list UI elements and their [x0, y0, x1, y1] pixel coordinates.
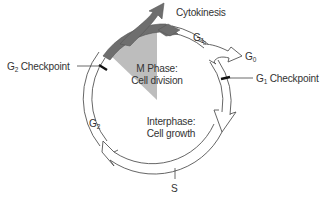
- s-label: S: [171, 182, 178, 194]
- g2-checkpoint-label: G2 Checkpoint: [7, 60, 70, 72]
- g0-exit-arrow: [203, 44, 242, 64]
- cell-cycle-diagram: [0, 0, 326, 197]
- m-phase-label: M Phase: Cell division: [120, 62, 194, 86]
- g2-label-sub: 2: [97, 123, 100, 130]
- g1-checkpoint-rest: Checkpoint: [267, 72, 318, 84]
- interphase-line2: Cell growth: [131, 127, 210, 139]
- m-phase-line1: M Phase:: [120, 62, 194, 74]
- cytokinesis-label: Cytokinesis: [176, 6, 226, 18]
- g1-checkpoint-label: G1 Checkpoint: [256, 72, 319, 84]
- g1-label-sub: 1: [201, 37, 204, 44]
- g0-label: G0: [245, 50, 256, 62]
- interphase-line1: Interphase:: [131, 115, 210, 127]
- g0-label-sub: 0: [253, 56, 256, 63]
- g1-label: G1: [193, 31, 204, 43]
- interphase-label: Interphase: Cell growth: [131, 115, 210, 139]
- g1-checkpoint-mark: [221, 77, 230, 79]
- g2-label: G2: [89, 117, 100, 129]
- g2-checkpoint-rest: Checkpoint: [18, 60, 69, 72]
- m-phase-line2: Cell division: [120, 74, 194, 86]
- g2-checkpoint-mark: [99, 65, 107, 70]
